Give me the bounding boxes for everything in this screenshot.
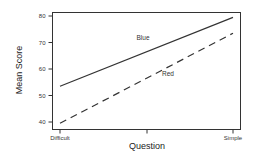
plot-frame (53, 13, 241, 130)
line-chart: 4050607080 DifficultSimple Mean Score Qu… (0, 0, 256, 159)
x-axis-title: Question (129, 141, 165, 151)
y-axis: 4050607080 (39, 13, 53, 125)
y-axis-title: Mean Score (14, 46, 24, 95)
series-label-blue: Blue (136, 34, 149, 41)
x-axis: DifficultSimple (50, 130, 243, 141)
series-label-red: Red (162, 70, 174, 77)
y-tick-label: 70 (39, 40, 46, 46)
y-tick-label: 40 (39, 119, 46, 125)
y-tick-label: 80 (39, 13, 46, 19)
y-tick-label: 60 (39, 66, 46, 72)
series-line-blue (60, 17, 233, 86)
y-tick-label: 50 (39, 93, 46, 99)
x-tick-label: Difficult (50, 135, 70, 141)
x-tick-label: Simple (224, 135, 243, 141)
series-line-red (60, 33, 233, 123)
